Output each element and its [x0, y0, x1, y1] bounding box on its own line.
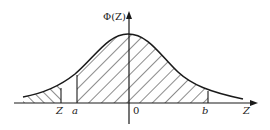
b-point-label: b	[202, 105, 208, 116]
x-axis-label: Z	[242, 105, 251, 116]
a-point-label: a	[72, 105, 78, 116]
origin-label: 0	[133, 105, 139, 116]
y-axis-arrow-icon	[126, 11, 132, 19]
x-axis-arrow-icon	[250, 100, 258, 106]
z-point-label: Z	[55, 105, 64, 116]
diagram-canvas: Φ(Z) Z Z a 0 b	[0, 0, 270, 130]
normal-distribution-diagram: Φ(Z) Z Z a 0 b	[0, 0, 270, 130]
y-axis-label: Φ(Z)	[103, 11, 126, 22]
